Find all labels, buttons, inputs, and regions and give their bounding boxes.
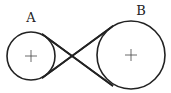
label-a: A	[25, 10, 36, 25]
pulley-diagram: A B	[0, 0, 171, 93]
label-b: B	[136, 3, 146, 18]
